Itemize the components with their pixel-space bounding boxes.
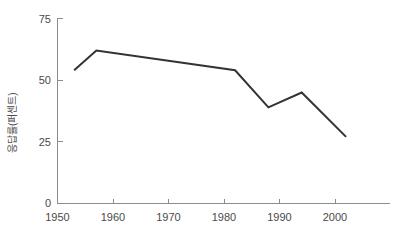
x-axis-tick-labels: 1950 1960 1970 1980 1990 2000 — [45, 211, 347, 223]
y-axis-ticks — [58, 19, 63, 204]
y-axis-title: 응답률(퍼센트) — [7, 92, 18, 153]
x-axis-ticks — [58, 199, 336, 204]
y-tick-label-0: 0 — [45, 197, 51, 209]
chart-container: 응답률(퍼센트) 0 25 50 75 — [0, 0, 399, 245]
y-tick-label-75: 75 — [39, 13, 51, 25]
x-tick-label-2000: 2000 — [323, 211, 347, 223]
line-chart: 응답률(퍼센트) 0 25 50 75 — [0, 0, 399, 245]
x-tick-label-1970: 1970 — [156, 211, 180, 223]
x-tick-label-1960: 1960 — [101, 211, 125, 223]
x-tick-label-1950: 1950 — [45, 211, 69, 223]
y-tick-label-50: 50 — [39, 74, 51, 86]
x-tick-label-1980: 1980 — [212, 211, 236, 223]
y-tick-label-25: 25 — [39, 136, 51, 148]
y-axis-tick-labels: 0 25 50 75 — [39, 13, 51, 210]
data-series-response-rate — [74, 51, 346, 137]
x-tick-label-1990: 1990 — [267, 211, 291, 223]
